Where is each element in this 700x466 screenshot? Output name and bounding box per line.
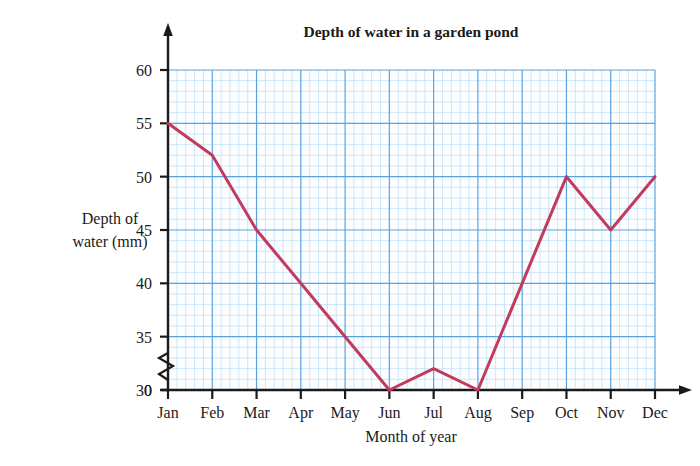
y-tick-label-55: 55 (136, 115, 152, 132)
y-axis-label-line2: water (mm) (72, 233, 147, 251)
x-tick-label-oct: Oct (555, 404, 579, 421)
y-tick-label-60: 60 (136, 62, 152, 79)
x-tick-label-jul: Jul (424, 404, 443, 421)
y-tick-label-40: 40 (136, 275, 152, 292)
x-tick-label-aug: Aug (464, 404, 492, 422)
x-tick-label-sep: Sep (510, 404, 534, 422)
y-tick-label-0: 0 (144, 382, 152, 399)
x-tick-label-mar: Mar (243, 404, 270, 421)
y-tick-label-35: 35 (136, 329, 152, 346)
chart-figure: 30354045505560 0 JanFebMarAprMayJunJulAu… (0, 0, 700, 466)
x-tick-label-dec: Dec (642, 404, 668, 421)
x-tick-label-nov: Nov (597, 404, 625, 421)
x-axis-label: Month of year (365, 428, 457, 446)
x-tick-label-may: May (330, 404, 359, 422)
x-tick-label-apr: Apr (288, 404, 314, 422)
x-tick-label-feb: Feb (200, 404, 224, 421)
x-tick-label-jun: Jun (378, 404, 400, 421)
x-tick-label-jan: Jan (157, 404, 178, 421)
y-tick-label-50: 50 (136, 169, 152, 186)
line-chart-svg: 30354045505560 0 JanFebMarAprMayJunJulAu… (0, 0, 700, 466)
chart-title: Depth of water in a garden pond (303, 23, 518, 40)
y-axis-label-line1: Depth of (82, 210, 139, 228)
